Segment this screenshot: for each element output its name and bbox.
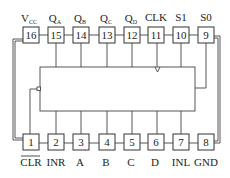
- pin-7: 7 INL: [172, 134, 191, 168]
- svg-text:8: 8: [203, 136, 209, 148]
- pin-12: 12 QD: [124, 12, 140, 43]
- svg-text:15: 15: [51, 29, 63, 41]
- svg-text:2: 2: [53, 136, 59, 148]
- svg-text:QD: QD: [125, 12, 138, 25]
- pin-11: 11 CLK: [145, 11, 167, 43]
- svg-text:6: 6: [153, 136, 159, 148]
- svg-text:16: 16: [26, 29, 38, 41]
- pin-5: 5 C: [124, 134, 140, 168]
- svg-text:3: 3: [78, 136, 84, 148]
- svg-text:QA: QA: [49, 12, 62, 25]
- pin-16: 16 VCC: [21, 12, 39, 43]
- pin-14: 14 QB: [73, 12, 89, 43]
- svg-text:B: B: [102, 156, 109, 168]
- pin-15: 15 QA: [48, 12, 64, 43]
- svg-text:C: C: [127, 156, 134, 168]
- svg-text:5: 5: [129, 136, 135, 148]
- svg-text:CLR: CLR: [20, 156, 42, 168]
- bottom-pins: 1 CLR 2 INR 3 A 4 B 5 C 6 D: [20, 134, 218, 168]
- chip-body: [40, 67, 195, 111]
- svg-text:10: 10: [176, 29, 188, 41]
- svg-text:13: 13: [102, 29, 114, 41]
- pin-3: 3 A: [73, 134, 89, 168]
- top-pins: 16 VCC 15 QA 14 QB 13 QC 12 QD 11 CLK: [21, 11, 214, 43]
- svg-text:INR: INR: [47, 156, 67, 168]
- svg-text:A: A: [76, 156, 84, 168]
- svg-text:14: 14: [76, 29, 88, 41]
- svg-text:S0: S0: [200, 11, 212, 23]
- pin-13: 13 QC: [99, 12, 115, 43]
- svg-text:11: 11: [151, 29, 162, 41]
- svg-text:D: D: [151, 156, 159, 168]
- svg-text:VCC: VCC: [21, 12, 37, 25]
- svg-text:7: 7: [178, 136, 184, 148]
- svg-text:GND: GND: [194, 156, 218, 168]
- svg-text:S1: S1: [175, 11, 187, 23]
- svg-text:1: 1: [28, 136, 34, 148]
- ic-pinout-diagram: 16 VCC 15 QA 14 QB 13 QC 12 QD 11 CLK: [0, 0, 230, 178]
- inversion-bubble-icon: [37, 87, 41, 91]
- svg-text:QC: QC: [100, 12, 112, 25]
- pin-9: 9 S0: [198, 11, 214, 43]
- svg-text:INL: INL: [172, 156, 191, 168]
- pin-10: 10 S1: [173, 11, 189, 43]
- pin-4: 4 B: [99, 134, 115, 168]
- svg-text:9: 9: [203, 29, 209, 41]
- svg-text:4: 4: [104, 136, 110, 148]
- pin-1: 1 CLR: [20, 134, 42, 168]
- svg-text:QB: QB: [74, 12, 86, 25]
- pin-6: 6 D: [148, 134, 164, 168]
- pin-8: 8 GND: [194, 134, 218, 168]
- pin-2: 2 INR: [47, 134, 67, 168]
- svg-text:12: 12: [127, 29, 138, 41]
- svg-text:CLK: CLK: [145, 11, 167, 23]
